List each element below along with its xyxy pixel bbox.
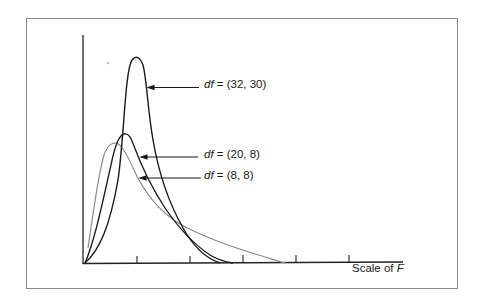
df-symbol: df <box>204 169 214 181</box>
annotation-text: = (20, 8) <box>214 148 260 160</box>
annotation-df-20-8: df = (20, 8) <box>204 148 260 160</box>
df-symbol: df <box>204 78 214 90</box>
x-axis-variable: F <box>397 262 404 274</box>
curve-df-8-8 <box>88 143 286 263</box>
x-axis-label: Scale of F <box>352 262 404 274</box>
annotation-text: = (32, 30) <box>214 78 267 90</box>
speck <box>107 62 109 64</box>
x-axis-label-text: Scale of <box>352 262 397 274</box>
annotation-arrows <box>140 86 201 181</box>
annotation-text: = (8, 8) <box>214 169 254 181</box>
annotation-df-32-30: df = (32, 30) <box>204 78 266 90</box>
df-symbol: df <box>204 148 214 160</box>
annotation-df-8-8: df = (8, 8) <box>204 169 254 181</box>
